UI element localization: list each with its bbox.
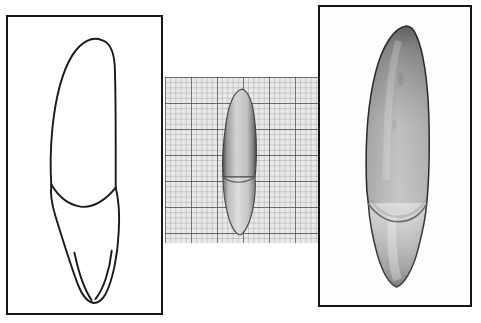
root-mesial-outline	[51, 185, 94, 303]
cervical-line	[51, 185, 115, 207]
root-distal-outline	[94, 188, 120, 303]
crown-surface-mark-1	[398, 72, 404, 86]
graph-paper-svg	[165, 77, 320, 243]
photograph-svg	[320, 7, 470, 305]
panel-graph-paper	[165, 77, 320, 243]
crown-distal-outline	[102, 40, 116, 187]
root-apex-inner-mesial	[74, 253, 91, 300]
crown-surface-mark-2	[392, 119, 397, 131]
line-drawing-svg	[8, 17, 161, 313]
panel-line-drawing	[6, 15, 163, 315]
root-apex-inner-distal	[96, 251, 112, 299]
tooth-outline-group	[51, 39, 119, 303]
panel-photograph	[318, 5, 472, 307]
figure-root: Maxillary permanent canine — labial aspe…	[0, 0, 481, 323]
crown-mesial-outline	[51, 39, 102, 185]
